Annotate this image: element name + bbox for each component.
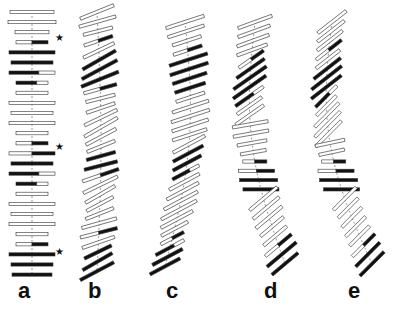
panel-label-c: c (166, 280, 178, 302)
panel-label-d: d (264, 280, 277, 302)
star-marker-icon: ★ (55, 33, 64, 43)
stack-plate (16, 132, 48, 135)
stack-plate (172, 154, 202, 172)
stack-plate (319, 148, 345, 157)
stack-plate (252, 196, 280, 220)
stack-plate (318, 169, 354, 172)
panel-d (232, 14, 299, 276)
stack-plate (11, 263, 53, 266)
stack-plate (263, 225, 288, 247)
stack-plate (172, 35, 202, 47)
stack-plate (9, 253, 55, 256)
stack-plate (255, 205, 283, 229)
panel-label-e: e (348, 280, 360, 302)
stack-plate (86, 93, 116, 103)
stack-plate (161, 220, 189, 237)
stack-plate (359, 251, 385, 277)
stack-plate (243, 160, 267, 163)
stack-plate (11, 111, 53, 114)
stack-plate (16, 142, 48, 145)
star-marker-icon: ★ (55, 142, 64, 152)
stack-plate (271, 252, 299, 276)
stack-plate (9, 71, 55, 74)
stack-plate (240, 179, 278, 182)
panel-label-a: a (18, 280, 30, 302)
stack-plate (266, 241, 297, 268)
stack-plate (83, 26, 113, 36)
stack-plate (15, 31, 49, 34)
stack-plate (10, 10, 54, 13)
stack-plate (12, 273, 52, 276)
stack-plate (11, 162, 53, 165)
stack-plate (9, 223, 55, 226)
panel-e (310, 10, 385, 277)
stack-plate (16, 192, 48, 195)
star-marker-icon: ★ (55, 247, 64, 257)
panel-b (79, 4, 119, 282)
stack-plate (16, 91, 48, 94)
stack-plate (11, 61, 53, 64)
stack-plate (9, 122, 55, 125)
stack-plate (16, 81, 48, 84)
stack-plate (172, 164, 200, 181)
molecular-stack-diagram (0, 0, 410, 309)
stack-plate (8, 21, 56, 24)
stack-plate (82, 252, 113, 272)
stack-plate (9, 172, 55, 175)
stack-plate (260, 216, 285, 238)
stack-plate (9, 101, 55, 104)
stack-plate (322, 160, 346, 163)
stack-plate (82, 49, 117, 71)
panel-a (8, 10, 56, 276)
stack-plate (351, 233, 376, 258)
stack-plate (355, 241, 381, 267)
stack-plate (9, 152, 55, 155)
stack-plate (264, 233, 292, 257)
stack-plate (237, 139, 267, 147)
stack-plate (16, 41, 48, 44)
stack-plate (11, 212, 53, 215)
stack-plate (16, 243, 48, 246)
stack-plate (240, 148, 266, 156)
stack-plate (16, 182, 48, 185)
stack-plate (172, 144, 204, 163)
stack-plate (320, 179, 358, 182)
panel-label-b: b (88, 280, 101, 302)
stack-plate (9, 51, 55, 54)
stack-plate (9, 202, 55, 205)
stack-plate (16, 233, 48, 236)
stack-plate (239, 169, 275, 172)
panel-c (149, 14, 210, 275)
